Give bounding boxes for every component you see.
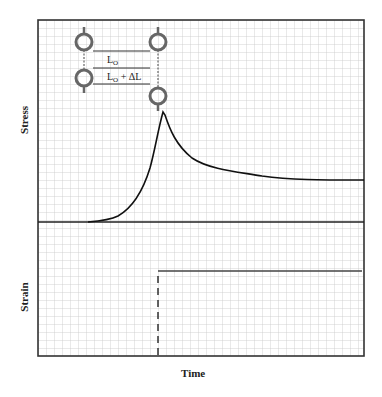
y-axis-label-strain: Strain (18, 277, 30, 317)
label-rest-length: LO (107, 54, 118, 67)
y-axis-label-stress: Stress (18, 100, 30, 140)
label-stretched-length: LO + ΔL (107, 71, 141, 84)
stress-strain-figure (0, 0, 382, 397)
x-axis-label-time: Time (181, 367, 205, 379)
